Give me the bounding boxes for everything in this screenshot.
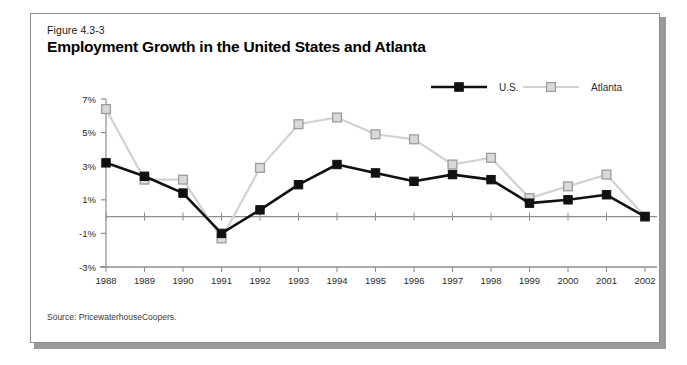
x-axis-tick-label: 2001: [596, 275, 617, 286]
figure-page: Figure 4.3-3 Employment Growth in the Un…: [0, 0, 687, 365]
legend-label: Atlanta: [591, 82, 623, 93]
data-point-atlanta: [448, 160, 457, 169]
data-point-atlanta: [179, 175, 188, 184]
data-point-atlanta: [410, 135, 419, 144]
x-axis-tick-label: 1988: [95, 275, 116, 286]
data-point-atlanta: [102, 105, 111, 114]
legend-swatch-marker: [455, 83, 463, 91]
data-point-atlanta: [602, 170, 611, 179]
employment-growth-line-chart: 7%5%3%1%-1%-3%19881989199019911992199319…: [31, 69, 659, 319]
data-point-us: [410, 177, 418, 185]
series-layer: [102, 105, 650, 243]
data-point-atlanta: [256, 163, 265, 172]
x-axis-tick-label: 1992: [249, 275, 270, 286]
x-axis-tick-label: 1993: [288, 275, 309, 286]
x-axis-tick-label: 1994: [326, 275, 347, 286]
legend-label: U.S.: [499, 82, 518, 93]
data-point-atlanta: [487, 153, 496, 162]
zero-line-layer: [106, 213, 657, 221]
data-point-us: [448, 170, 456, 178]
x-axis-tick-label: 1997: [442, 275, 463, 286]
y-axis-tick-label: -1%: [79, 228, 96, 239]
legend-item-atlanta: Atlanta: [523, 82, 623, 93]
data-point-us: [294, 180, 302, 188]
data-point-us: [333, 160, 341, 168]
y-axis-tick-label: 5%: [82, 127, 96, 138]
x-axis-tick-label: 1998: [480, 275, 501, 286]
data-point-us: [641, 212, 649, 220]
data-point-us: [602, 191, 610, 199]
x-axis-tick-label: 1999: [519, 275, 540, 286]
legend-item-us: U.S.: [431, 82, 518, 93]
chart-plot-area: 7%5%3%1%-1%-3%19881989199019911992199319…: [31, 69, 659, 319]
figure-title: Employment Growth in the United States a…: [47, 38, 426, 56]
data-point-us: [525, 199, 533, 207]
x-axis-tick-label: 1989: [134, 275, 155, 286]
figure-label: Figure 4.3-3: [47, 24, 105, 36]
chart-legend: U.S.Atlanta: [431, 82, 623, 93]
y-axis-tick-label: -3%: [79, 262, 96, 273]
data-point-us: [102, 159, 110, 167]
x-axis-tick-label: 2002: [634, 275, 655, 286]
data-point-atlanta: [294, 120, 303, 129]
data-point-us: [487, 175, 495, 183]
data-point-us: [564, 196, 572, 204]
x-axis-tick-label: 1996: [403, 275, 424, 286]
x-axis-tick-label: 1990: [172, 275, 193, 286]
figure-frame: Figure 4.3-3 Employment Growth in the Un…: [30, 13, 660, 343]
data-point-atlanta: [371, 130, 380, 139]
legend-swatch-marker: [547, 83, 556, 92]
data-point-us: [217, 229, 225, 237]
data-point-atlanta: [333, 113, 342, 122]
y-axis-tick-label: 1%: [82, 194, 96, 205]
data-point-us: [179, 189, 187, 197]
y-axis-tick-label: 7%: [82, 94, 96, 105]
data-point-us: [256, 206, 264, 214]
y-axis-tick-label: 3%: [82, 161, 96, 172]
data-point-us: [371, 169, 379, 177]
x-axis-tick-label: 2000: [557, 275, 578, 286]
source-note: Source: PricewaterhouseCoopers.: [47, 312, 176, 322]
data-point-atlanta: [564, 182, 573, 191]
x-axis-tick-label: 1995: [365, 275, 386, 286]
x-axis-tick-label: 1991: [211, 275, 232, 286]
data-point-us: [140, 172, 148, 180]
